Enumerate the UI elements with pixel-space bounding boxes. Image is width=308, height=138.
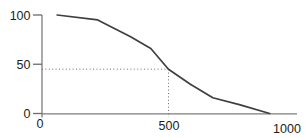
- x-tick-label-1000: 1000: [273, 122, 301, 136]
- tick-labels: 05010005001000: [10, 9, 301, 136]
- y-tick-label-50: 50: [17, 58, 31, 72]
- series-declining-curve: [57, 15, 270, 114]
- line-chart-figure: 05010005001000: [0, 0, 308, 138]
- chart-canvas: 05010005001000: [0, 0, 308, 138]
- x-tick-label-500: 500: [159, 119, 180, 133]
- x-tick-label-0: 0: [37, 117, 44, 131]
- reference-dotted-lines: [42, 69, 169, 117]
- y-tick-label-100: 100: [10, 9, 31, 23]
- data-series: [57, 15, 270, 114]
- y-tick-label-0: 0: [24, 107, 31, 121]
